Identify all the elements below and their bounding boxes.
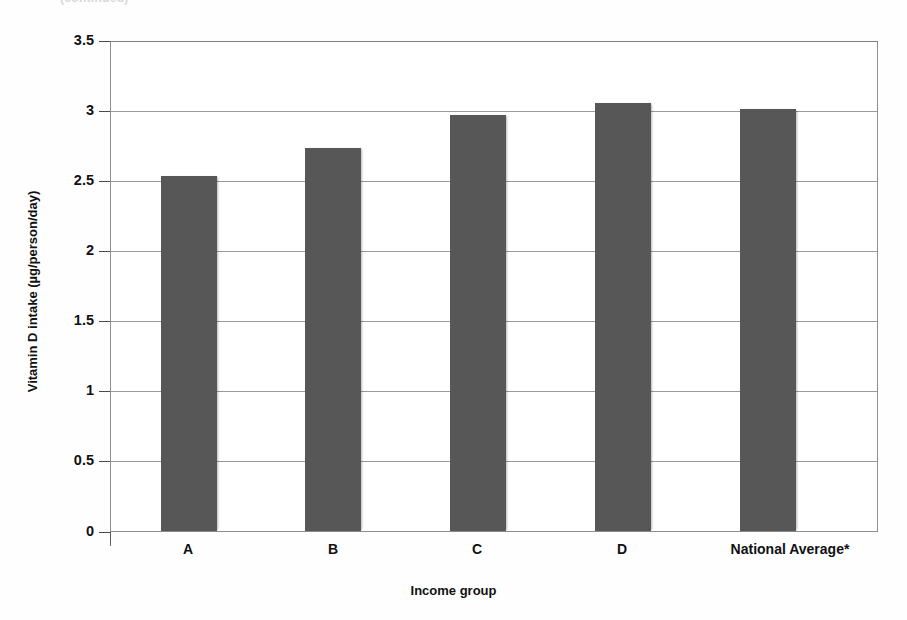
y-tick-mark [99,111,110,112]
y-tick-mark [99,532,110,533]
y-tick-label: 0.5 [34,453,94,468]
y-tick-mark [99,391,110,392]
x-axis-title: Income group [0,583,907,598]
y-tick-label: 1 [34,383,94,398]
y-tick-mark [99,321,110,322]
x-tick-label-national-average: National Average* [695,541,885,557]
y-tick-mark [99,461,110,462]
bar-c [450,115,506,531]
y-tick-label: 2 [34,243,94,258]
bar-d [595,103,651,531]
x-tick-label-b: B [288,541,378,557]
y-axis-tick-labels: 3.5 3 2.5 2 1.5 1 0.5 0 [28,0,94,620]
y-tick-label: 1.5 [34,313,94,328]
x-tick-label-d: D [577,541,667,557]
x-tick-label-a: A [143,541,233,557]
top-caption-fragment: (continued) [60,0,320,7]
y-tick-mark [99,251,110,252]
bar-national-average [740,109,796,531]
y-tick-label: 3.5 [34,33,94,48]
x-tick-label-c: C [432,541,522,557]
bar-b [305,148,361,531]
y-tick-label: 0 [34,524,94,539]
y-tick-label: 2.5 [34,173,94,188]
y-tick-label: 3 [34,103,94,118]
y-tick-mark [99,181,110,182]
chart-figure: (continued) Vitamin D intake (µg/person/… [0,0,907,620]
bar-a [161,176,217,531]
y-tick-mark [99,41,110,42]
plot-area [110,41,878,532]
x-tick-mark [110,532,111,544]
